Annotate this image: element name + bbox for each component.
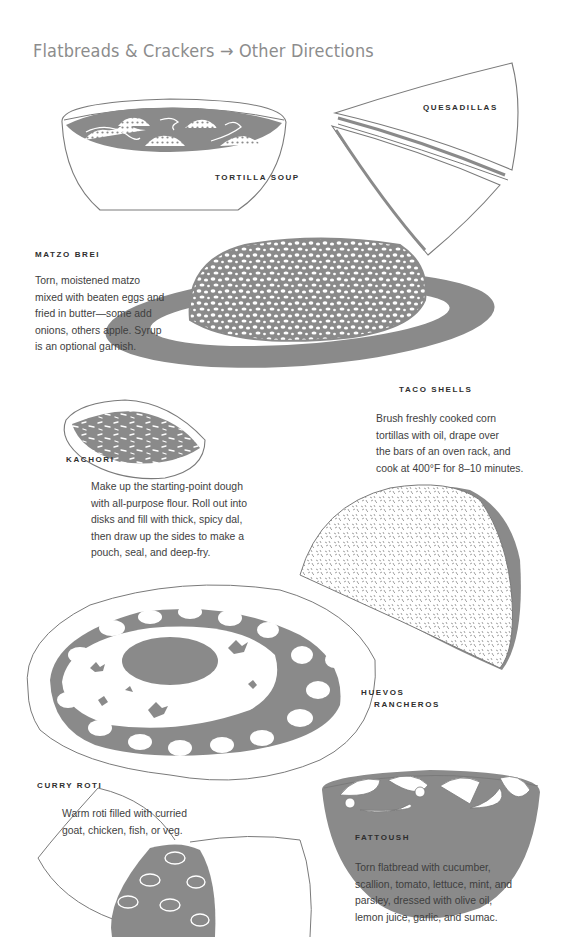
kachori-description: Make up the starting-point dough with al… — [91, 479, 247, 562]
quesadillas-label: QUESADILLAS — [423, 103, 498, 112]
curry-roti-label: CURRY ROTI — [37, 781, 102, 790]
curry-roti-description: Warm roti filled with curried goat, chic… — [62, 806, 187, 839]
kachori-label: KACHORI — [66, 455, 115, 464]
huevos-rancheros-label-line1: HUEVOS — [361, 688, 404, 697]
quesadilla-wedges — [332, 63, 518, 255]
huevos-rancheros-plate — [27, 585, 375, 780]
taco-shells-description: Brush freshly cooked corn tortillas with… — [376, 411, 523, 477]
huevos-rancheros-label-line2: RANCHEROS — [374, 700, 440, 709]
tortilla-soup-bowl — [62, 99, 286, 210]
fattoush-label: FATTOUSH — [355, 833, 410, 842]
fattoush-description: Torn flatbread with cucumber, scallion, … — [355, 860, 512, 926]
tortilla-soup-label: TORTILLA SOUP — [215, 173, 300, 182]
taco-shells-label: TACO SHELLS — [399, 385, 472, 394]
matzo-brei-description: Torn, moistened matzo mixed with beaten … — [35, 273, 164, 356]
kachori-pastry — [64, 400, 205, 479]
page-title: Flatbreads & Crackers → Other Directions — [33, 41, 374, 61]
matzo-brei-label: MATZO BREI — [35, 250, 100, 259]
